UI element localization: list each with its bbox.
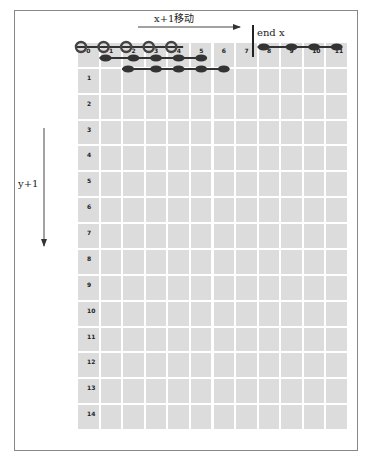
overlay-graphics [0,0,372,461]
chain-group [76,42,343,73]
